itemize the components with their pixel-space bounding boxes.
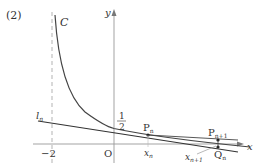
asymptote-label: −2 — [41, 148, 56, 159]
pn-label: Pn — [143, 122, 154, 134]
problem-label: (2) — [6, 9, 22, 22]
y-intercept-numerator: 1 — [119, 111, 125, 121]
x-axis-label: x — [247, 141, 253, 152]
xn1-label: xn+1 — [185, 152, 203, 163]
qn-label: Qn — [214, 149, 226, 161]
y-axis-arrow-icon — [112, 9, 117, 16]
xn-label: xn — [144, 148, 153, 159]
y-intercept-denominator: 2 — [119, 122, 125, 132]
graph-diagram: (2) C y x O −2 1 2 ln Pn Pn+1 Qn xn xn+1 — [0, 0, 261, 168]
y-axis-label: y — [104, 7, 111, 18]
tangent-line-label: ln — [36, 110, 43, 122]
origin-label: O — [104, 148, 112, 159]
curve-label: C — [60, 16, 69, 29]
pn1-label: Pn+1 — [208, 127, 227, 139]
